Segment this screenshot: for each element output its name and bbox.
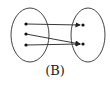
diagram-caption: (B) — [0, 63, 110, 79]
codomain-points — [81, 23, 84, 45]
codomain-set-ellipse — [71, 8, 105, 62]
domain-points — [24, 22, 27, 46]
